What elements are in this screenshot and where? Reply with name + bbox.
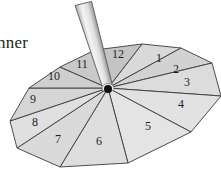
spinner-diagram: 123456789101112 [0,0,221,170]
section-number-7: 7 [55,132,61,146]
section-number-9: 9 [30,92,36,106]
section-number-6: 6 [96,134,102,148]
section-number-10: 10 [48,69,60,83]
section-number-4: 4 [178,97,184,111]
section-number-3: 3 [184,75,190,89]
section-number-11: 11 [76,57,88,71]
section-number-5: 5 [145,119,151,133]
spinner-pivot [104,85,112,93]
section-number-1: 1 [156,51,162,65]
section-number-12: 12 [112,47,124,61]
section-number-8: 8 [32,115,38,129]
spinner-wedges [10,44,221,167]
section-number-2: 2 [173,62,179,76]
